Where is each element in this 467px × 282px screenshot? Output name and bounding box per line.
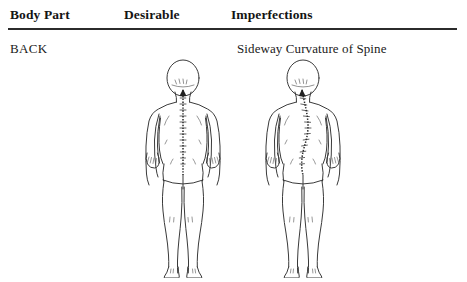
figure-imperfection-back (243, 56, 363, 278)
hips-pelvis (163, 164, 203, 189)
hips-pelvis (283, 164, 323, 189)
legs-outline (282, 181, 323, 273)
column-header-desirable: Desirable (124, 7, 180, 23)
spine-straight (180, 89, 187, 175)
table-header-row: Body Part Desirable Imperfections (0, 7, 467, 25)
hands (266, 153, 340, 168)
nape-hair-detail (292, 79, 314, 87)
header-divider-rule (8, 28, 457, 30)
torso-outline (146, 92, 220, 185)
feet (284, 267, 322, 278)
torso-outline (266, 92, 340, 185)
table-sheet: Body Part Desirable Imperfections BACK S… (0, 0, 467, 282)
row-label-body-part: BACK (10, 41, 47, 57)
head-outline (287, 60, 319, 96)
imperfection-caption: Sideway Curvature of Spine (237, 41, 387, 57)
column-header-imperfections: Imperfections (231, 7, 313, 23)
feet (164, 267, 202, 278)
legs-outline (162, 181, 203, 273)
figure-desirable-back (123, 56, 243, 278)
column-header-body-part: Body Part (10, 7, 70, 23)
nape-hair-detail (172, 79, 194, 87)
